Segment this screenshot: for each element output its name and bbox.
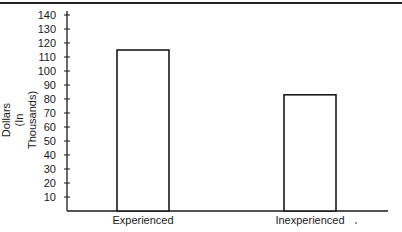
bar-inexperienced	[284, 95, 336, 211]
y-tick-label: 60	[44, 121, 56, 133]
stray-mark	[355, 222, 357, 224]
x-category-label: Experienced	[83, 214, 203, 226]
y-tick-label: 70	[44, 107, 56, 119]
bar-experienced	[117, 50, 169, 211]
y-axis-ticks: 102030405060708090100110120130140	[38, 9, 70, 203]
bar-chart: 102030405060708090100110120130140	[0, 0, 402, 232]
y-axis-label-line-1: Dollars	[0, 90, 13, 150]
y-tick-label: 110	[38, 51, 56, 63]
y-tick-label: 30	[44, 163, 56, 175]
y-tick-label: 40	[44, 149, 56, 161]
bars	[117, 50, 336, 211]
y-tick-label: 120	[38, 37, 56, 49]
y-tick-label: 50	[44, 135, 56, 147]
y-tick-label: 10	[44, 191, 56, 203]
y-axis-label: Dollars (In Thousands)	[0, 90, 40, 150]
y-tick-label: 20	[44, 177, 56, 189]
y-tick-label: 100	[38, 65, 56, 77]
y-axis-label-line-2: (In Thousands)	[13, 90, 39, 150]
y-tick-label: 80	[44, 93, 56, 105]
y-tick-label: 90	[44, 79, 56, 91]
y-tick-label: 140	[38, 9, 56, 21]
y-tick-label: 130	[38, 23, 56, 35]
x-category-label: Inexperienced	[250, 214, 370, 226]
